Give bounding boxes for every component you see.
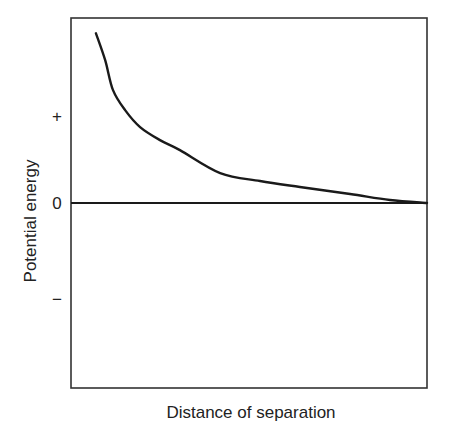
- potential-energy-curve: [96, 33, 427, 203]
- y-tick-labels: +0−: [52, 107, 62, 308]
- chart: +0− Distance of separation Potential ene…: [0, 0, 450, 438]
- y-tick-label: 0: [52, 194, 61, 213]
- y-tick-label: +: [52, 107, 62, 126]
- y-tick-label: −: [52, 290, 62, 309]
- x-axis-label: Distance of separation: [166, 403, 335, 422]
- y-axis-label: Potential energy: [21, 159, 40, 282]
